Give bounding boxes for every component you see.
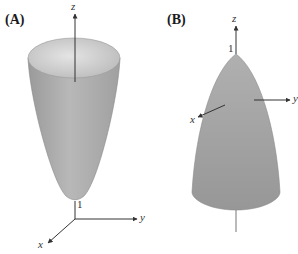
panel-b-tick-1: 1 [228,42,234,54]
figure-canvas [0,0,298,254]
panel-a-label: (A) [5,12,24,28]
panel-b-surface [192,54,280,210]
panel-a-z-label: z [71,0,75,12]
panel-a-tick-1: 1 [77,198,83,210]
panel-a-surface [28,38,120,200]
panel-b-x-label: x [190,113,195,125]
panel-b-label: (B) [167,12,186,28]
panel-b-y-label: y [293,92,298,104]
panel-b-z-label: z [232,12,236,24]
panel-a-x-label: x [38,238,43,250]
panel-a-y-label: y [140,211,145,223]
